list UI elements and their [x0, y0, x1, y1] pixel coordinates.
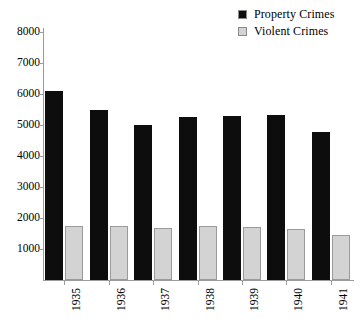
x-axis-tick-mark: [331, 281, 332, 285]
legend-item-property-crimes: Property Crimes: [238, 7, 360, 22]
x-axis-tick-label-1936: 1936: [115, 288, 127, 311]
x-axis-tick-mark: [242, 281, 243, 285]
x-axis-tick-label-1938: 1938: [204, 288, 216, 311]
x-axis-tick-label-1937: 1937: [159, 288, 171, 311]
bar-property-crimes-1938: [179, 117, 197, 280]
y-axis-tick-label: 8000: [0, 26, 40, 38]
x-axis-tick-label-1935: 1935: [70, 288, 82, 311]
bar-violent-crimes-1937: [154, 228, 172, 280]
y-axis-tick-label: 7000: [0, 57, 40, 69]
y-axis-tick-label: 5000: [0, 119, 40, 131]
x-axis-tick-mark: [153, 281, 154, 285]
y-axis-tick-mark: [38, 249, 43, 250]
legend-label: Violent Crimes: [254, 25, 328, 38]
y-axis-tick-label: 4000: [0, 150, 40, 162]
plot-area: 10002000300040005000600070008000 1935193…: [0, 0, 362, 330]
bar-violent-crimes-1936: [110, 226, 128, 280]
x-axis-tick-mark: [109, 281, 110, 285]
y-axis-tick-mark: [38, 32, 43, 33]
legend-label: Property Crimes: [254, 8, 335, 21]
y-axis-tick-mark: [38, 94, 43, 95]
y-axis-tick-mark: [38, 63, 43, 64]
bar-property-crimes-1935: [45, 91, 63, 280]
legend-swatch-icon: [238, 10, 247, 19]
x-axis-tick-label-1939: 1939: [248, 288, 260, 311]
bar-chart: 10002000300040005000600070008000 1935193…: [0, 0, 362, 330]
y-axis-line: [43, 28, 44, 281]
bar-property-crimes-1941: [312, 132, 330, 280]
y-axis-tick-label: 3000: [0, 181, 40, 193]
x-axis-tick-label-1940: 1940: [292, 288, 304, 311]
bar-property-crimes-1939: [223, 116, 241, 280]
x-axis-tick-label-1941: 1941: [337, 288, 349, 311]
bar-property-crimes-1936: [90, 110, 108, 281]
chart-legend: Property CrimesViolent Crimes: [238, 7, 360, 41]
bar-violent-crimes-1938: [199, 226, 217, 280]
legend-swatch-icon: [238, 27, 247, 36]
x-axis-tick-mark: [198, 281, 199, 285]
y-axis-tick-mark: [38, 156, 43, 157]
bar-violent-crimes-1935: [65, 226, 83, 280]
legend-item-violent-crimes: Violent Crimes: [238, 24, 360, 39]
y-axis-tick-mark: [38, 187, 43, 188]
y-axis-tick-mark: [38, 218, 43, 219]
x-axis-tick-mark: [286, 281, 287, 285]
y-axis-tick-label: 2000: [0, 212, 40, 224]
bar-property-crimes-1940: [267, 115, 285, 280]
bar-violent-crimes-1940: [287, 229, 305, 280]
bar-property-crimes-1937: [134, 125, 152, 280]
y-axis-tick-label: 6000: [0, 88, 40, 100]
y-axis-tick-label: 1000: [0, 243, 40, 255]
y-axis-tick-mark: [38, 125, 43, 126]
x-axis-tick-mark: [64, 281, 65, 285]
bar-violent-crimes-1939: [243, 227, 261, 280]
bar-violent-crimes-1941: [332, 235, 350, 280]
